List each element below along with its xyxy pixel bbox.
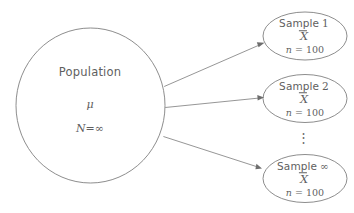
population-size-symbol: N	[76, 122, 86, 135]
sample-infinity-label: Sample∞	[277, 160, 329, 171]
sample-infinity-label-text: Sample	[277, 159, 317, 171]
sample-infinity-statistic: X	[300, 174, 308, 186]
sample-2-statistic: X	[300, 94, 308, 106]
arrow-population-to-sample-1	[164, 42, 264, 86]
sample-1-n-symbol: n	[286, 44, 292, 55]
population-mean-symbol: μ	[86, 99, 93, 110]
sample-1-label-text: Sample	[279, 17, 319, 29]
population-size: N=∞	[76, 123, 104, 134]
population-size-value: ∞	[95, 122, 104, 135]
population-size-equals: =	[86, 122, 95, 135]
samples-continuation-dots: ⋮	[297, 131, 310, 144]
sample-2-n-value: 100	[306, 107, 324, 118]
sample-2-size: n = 100	[286, 108, 324, 118]
sample-2-n-symbol: n	[286, 107, 292, 118]
sample-1-xbar: X	[300, 31, 308, 43]
sample-infinity-index: ∞	[320, 159, 329, 171]
sample-infinity-xbar: X	[300, 174, 308, 186]
sample-2-label: Sample2	[279, 80, 329, 91]
sample-1-n-value: 100	[306, 44, 324, 55]
sample-infinity-size: n = 100	[286, 188, 324, 198]
sample-1-n-equals: =	[295, 44, 303, 55]
sample-infinity-n-equals: =	[295, 187, 303, 198]
sample-1-statistic: X	[300, 31, 308, 43]
sample-1-index: 1	[322, 17, 329, 29]
sample-2-n-equals: =	[295, 107, 303, 118]
arrow-population-to-sample-infinity	[163, 137, 262, 170]
sample-infinity-n-value: 100	[306, 187, 324, 198]
diagram-canvas: Population μ N=∞ Sample1 X n = 100 Sampl…	[0, 0, 354, 213]
sample-2-index: 2	[322, 79, 329, 91]
sample-infinity-n-symbol: n	[286, 187, 292, 198]
sample-2-xbar: X	[300, 94, 308, 106]
arrow-population-to-sample-2	[165, 95, 264, 107]
population-label: Population	[59, 67, 121, 79]
sample-2-label-text: Sample	[279, 79, 319, 91]
sample-1-size: n = 100	[286, 45, 324, 55]
sample-1-label: Sample1	[279, 18, 329, 29]
